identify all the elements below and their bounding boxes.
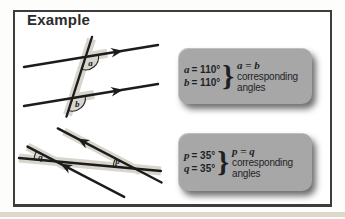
equation-p-variable: p — [184, 149, 190, 161]
parallel-line-2 — [24, 84, 158, 106]
equation-b: b= 110° — [184, 76, 220, 90]
description-line-2: angles — [232, 168, 293, 180]
equation-q: q= 35° — [184, 162, 215, 176]
example-heading: Example — [27, 11, 90, 28]
result-equation: p = q — [232, 145, 293, 157]
description-line-1: corresponding — [237, 71, 298, 83]
equation-p: p= 35° — [184, 149, 215, 163]
angle-p-label: p — [114, 156, 120, 166]
result-equation: a = b — [237, 59, 298, 71]
equation-a-variable: a — [184, 63, 190, 75]
equation-p-value: = 35° — [192, 150, 216, 161]
callout-angles-pq: p= 35° q= 35° } p = q corresponding angl… — [178, 133, 312, 191]
equation-q-variable: q — [184, 162, 190, 174]
right-parallel-line — [58, 128, 162, 182]
page-footer-strip — [0, 212, 345, 217]
angle-a-label: a — [88, 58, 93, 68]
angle-b-label: b — [75, 99, 80, 109]
description-line-2: angles — [237, 82, 298, 94]
curly-brace: } — [222, 61, 234, 91]
equation-q-value: = 35° — [192, 163, 216, 174]
equations-column: a= 110° b= 110° — [184, 63, 220, 90]
angle-q-label: q — [38, 152, 43, 162]
conclusion-column: p = q corresponding angles — [232, 145, 293, 180]
equations-column: p= 35° q= 35° — [184, 149, 215, 176]
parallel-lines-diagram-bottom: q p — [15, 118, 170, 210]
equation-b-value: = 110° — [192, 77, 221, 88]
parallel-lines-diagram-top: a b — [15, 32, 170, 124]
equation-b-variable: b — [184, 76, 190, 88]
description-line-1: corresponding — [232, 157, 293, 169]
conclusion-column: a = b corresponding angles — [237, 59, 298, 94]
curly-brace: } — [217, 147, 229, 177]
equation-a: a= 110° — [184, 63, 220, 77]
callout-angles-ab: a= 110° b= 110° } a = b corresponding an… — [178, 48, 312, 104]
equation-a-value: = 110° — [192, 64, 221, 75]
